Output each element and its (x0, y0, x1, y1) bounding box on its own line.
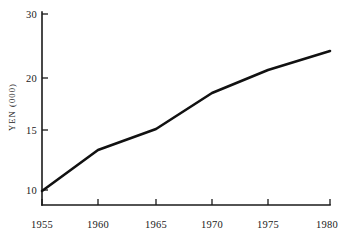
x-tick-label-1980: 1980 (316, 219, 338, 230)
x-tick-label-1965: 1965 (145, 219, 167, 230)
chart-background (0, 0, 345, 243)
x-tick-label-1975: 1975 (257, 219, 279, 230)
line-chart: 30 20 15 10 1955 1960 1965 1970 1975 198… (0, 0, 345, 243)
x-tick-label-1960: 1960 (87, 219, 109, 230)
y-tick-label-30: 30 (26, 9, 37, 20)
chart-canvas: 30 20 15 10 1955 1960 1965 1970 1975 198… (0, 0, 345, 243)
y-tick-label-20: 20 (26, 73, 37, 84)
x-tick-label-1970: 1970 (201, 219, 223, 230)
x-tick-label-1955: 1955 (31, 219, 53, 230)
y-tick-label-15: 15 (26, 125, 37, 136)
y-axis-title: YEN (000) (7, 83, 17, 131)
y-tick-label-10: 10 (26, 185, 37, 196)
